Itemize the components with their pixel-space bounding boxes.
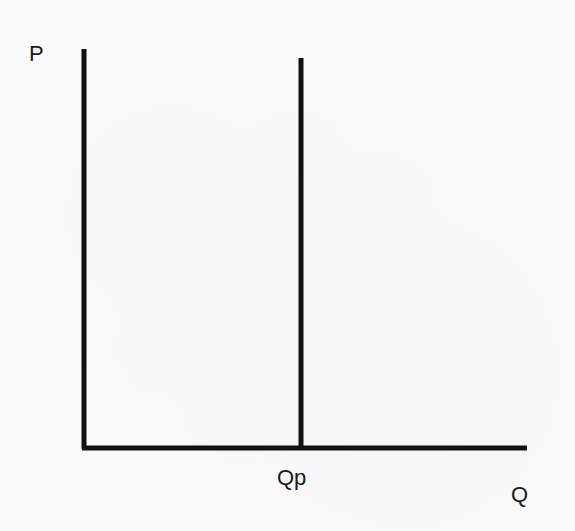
qp-label: Qp	[277, 467, 306, 489]
price-axis-label: P	[29, 43, 44, 65]
diagram-svg	[0, 0, 575, 531]
quantity-axis-label: Q	[511, 484, 528, 506]
diagram-canvas: P Qp Q	[0, 0, 575, 531]
